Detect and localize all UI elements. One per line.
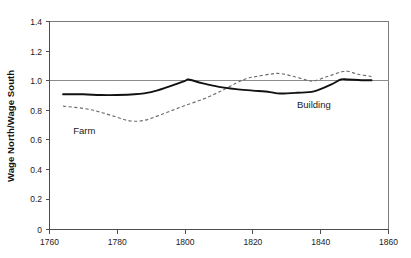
plot-frame [50, 22, 389, 230]
x-tick-label: 1860 [379, 237, 398, 247]
y-tick-label: 1.0 [30, 76, 42, 86]
y-tick-label: 1.4 [30, 17, 42, 27]
x-tick-label: 1840 [311, 237, 330, 247]
y-axis-label: Wage North/Wage South [5, 70, 16, 182]
x-tick-group: 1760 1780 1800 1820 1840 1860 [40, 230, 398, 248]
series-annotation-farm: Farm [73, 125, 95, 136]
chart-container: Wage North/Wage South 1.4 1.2 1.0 0.8 0.… [0, 0, 411, 258]
y-tick-label: 0.8 [30, 106, 42, 116]
y-tick-group: 1.4 1.2 1.0 0.8 0.6 0.4 0.2 0 [30, 17, 49, 235]
series-line-building [63, 79, 371, 95]
y-axis-label-text: Wage North/Wage South [5, 70, 16, 182]
y-tick-label: 0 [37, 225, 42, 235]
series-line-farm [63, 71, 371, 121]
x-tick-label: 1780 [108, 237, 127, 247]
x-tick-label: 1800 [176, 237, 195, 247]
x-tick-label: 1820 [243, 237, 262, 247]
y-tick-label: 0.4 [30, 165, 42, 175]
y-tick-label: 1.2 [30, 47, 42, 57]
y-tick-label: 0.2 [30, 194, 42, 204]
wage-ratio-line-chart: Wage North/Wage South 1.4 1.2 1.0 0.8 0.… [0, 0, 411, 258]
series-annotation-building: Building [297, 99, 331, 110]
y-tick-label: 0.6 [30, 135, 42, 145]
x-tick-label: 1760 [40, 237, 59, 247]
